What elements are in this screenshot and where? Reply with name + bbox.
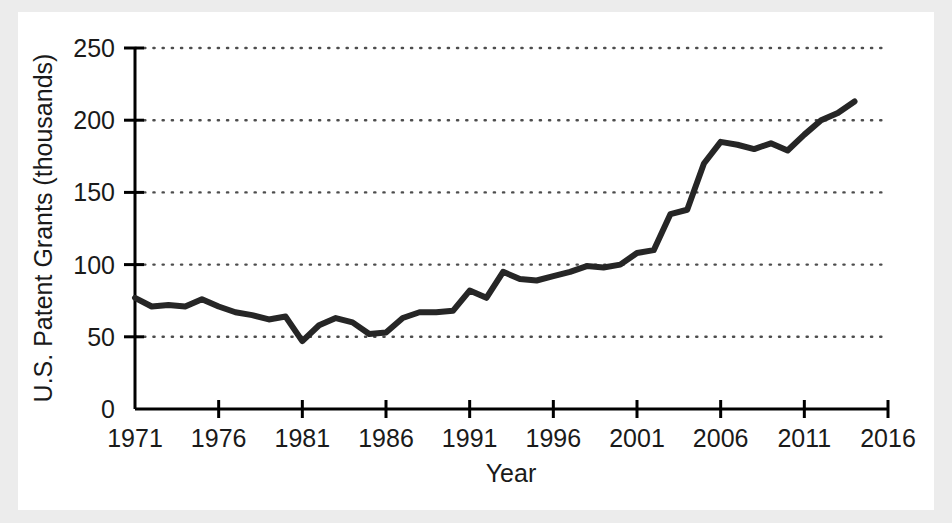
patent-grants-data-line (135, 101, 855, 341)
axes-group (135, 48, 888, 409)
y-ticks-group: 050100150200250 (73, 34, 144, 423)
x-axis-tick-label: 1986 (358, 424, 414, 452)
x-axis-tick-label: 1991 (442, 424, 498, 452)
y-axis-tick-label: 100 (73, 251, 115, 279)
y-axis-tick-label: 50 (87, 323, 115, 351)
x-axis-tick-label: 1981 (275, 424, 331, 452)
y-axis-tick-label: 0 (101, 395, 115, 423)
x-axis-tick-label: 2016 (860, 424, 916, 452)
y-axis-tick-label: 150 (73, 178, 115, 206)
chart-card: 050100150200250 197119761981198619911996… (18, 12, 934, 510)
x-axis-title: Year (486, 459, 537, 487)
x-axis-tick-label: 1971 (107, 424, 163, 452)
y-axis-tick-label: 250 (73, 34, 115, 62)
figure-root: 050100150200250 197119761981198619911996… (0, 0, 952, 523)
gridlines-group (135, 48, 888, 337)
x-axis-tick-label: 2011 (777, 424, 831, 452)
x-axis-tick-label: 1996 (526, 424, 582, 452)
y-axis-title: U.S. Patent Grants (thousands) (29, 54, 57, 403)
x-axis-tick-label: 2006 (693, 424, 749, 452)
x-axis-tick-label: 1976 (191, 424, 247, 452)
x-axis-tick-label: 2001 (609, 424, 665, 452)
patent-grants-line-chart: 050100150200250 197119761981198619911996… (18, 12, 934, 510)
y-axis-tick-label: 200 (73, 106, 115, 134)
